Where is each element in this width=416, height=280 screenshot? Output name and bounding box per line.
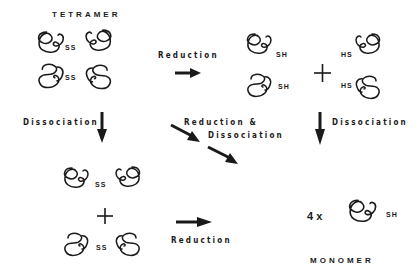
reduced-subunit-4 <box>356 76 379 98</box>
tetramer-subunit-2 <box>86 30 111 50</box>
reduction-label-top: Reduction <box>158 51 219 60</box>
plus-operator-bottom <box>97 208 113 224</box>
monomer-label: MONOMER <box>310 256 374 265</box>
monomer-subunit <box>350 200 376 221</box>
tetramer-label: TETRAMER <box>52 10 120 19</box>
dimer-1-subunit-a <box>65 168 88 187</box>
reduction-label-bottom: Reduction <box>171 236 232 245</box>
reduction-and-label: Reduction & <box>184 118 258 127</box>
monomer-node: 4 x SH MONOMER <box>307 200 398 265</box>
sh-bond-label: SH <box>278 83 290 90</box>
reduction-arrow-bottom: Reduction <box>171 217 232 245</box>
dimer-1-subunit-b <box>116 167 139 186</box>
tetramer-node: TETRAMER SS SS <box>39 10 121 89</box>
ss-bond-label: SS <box>96 244 107 251</box>
reduced-subunits-node: SH SH HS HS <box>248 34 380 98</box>
tetramer-subunit-4 <box>86 65 110 88</box>
reduction-arrow-top: Reduction <box>158 51 219 78</box>
tetramer-subunit-3 <box>39 64 63 87</box>
hs-bond-label: HS <box>341 82 353 89</box>
tetramer-subunit-1 <box>39 32 64 52</box>
ss-bond-label: SS <box>95 181 106 188</box>
dimer-2-subunit-a <box>65 233 88 255</box>
dimers-node: SS SS <box>65 167 140 255</box>
dimer-2-subunit-b <box>116 233 139 255</box>
ss-bond-label: SS <box>65 74 76 81</box>
dissociation-arrow-left: Dissociation <box>23 112 107 143</box>
reduction-dissociation-arrow: Reduction & Dissociation <box>171 118 284 164</box>
ss-bond-label: SS <box>65 44 76 51</box>
monomer-count: 4 x <box>307 210 323 222</box>
sh-bond-label: SH <box>276 51 288 58</box>
diagram-canvas: TETRAMER SS SS Reduction SH SH HS HS Dis… <box>0 0 416 280</box>
reduced-subunit-1 <box>248 34 271 53</box>
hs-bond-label: HS <box>341 51 353 58</box>
reduced-subunit-3 <box>356 34 379 53</box>
dissociation-label-left: Dissociation <box>23 118 99 127</box>
dissociation-label-right: Dissociation <box>332 118 408 127</box>
dissociation-diag-label: Dissociation <box>208 131 284 140</box>
reduced-subunit-2 <box>248 74 271 96</box>
plus-operator-top <box>314 64 331 82</box>
dissociation-arrow-right: Dissociation <box>315 112 408 145</box>
sh-bond-label: SH <box>386 211 398 218</box>
